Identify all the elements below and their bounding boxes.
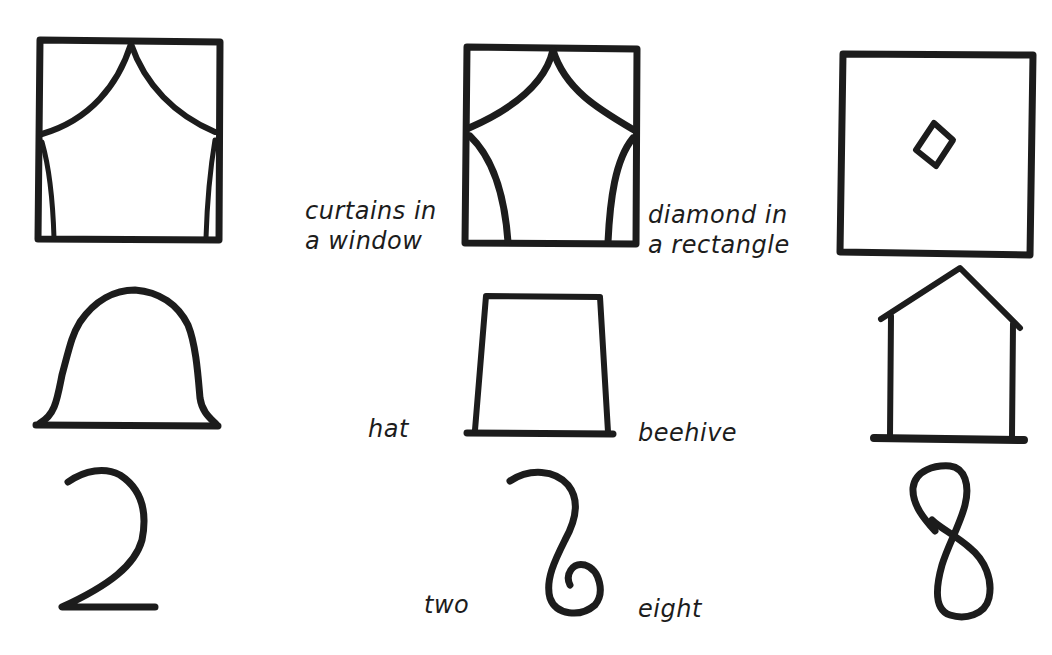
ambiguous-figures-diagram [0,0,1052,655]
label-diamond-in-a-rectangle: diamond in a rectangle [648,200,790,260]
beehive-drawing [467,296,613,434]
curtains-window-left [38,40,220,240]
label-curtains-in-a-window: curtains in a window [305,196,437,256]
label-two: two [424,590,469,620]
curtains-window-middle [465,47,637,244]
label-hat: hat [368,414,409,444]
numeral-two-drawing [62,471,155,607]
numeral-eight-drawing [913,466,990,617]
house-drawing [874,268,1024,440]
label-eight: eight [638,594,702,624]
label-beehive: beehive [638,418,737,448]
ambiguous-curl-drawing [510,472,600,613]
diamond-in-rectangle [840,54,1033,255]
hat-drawing [36,290,218,426]
